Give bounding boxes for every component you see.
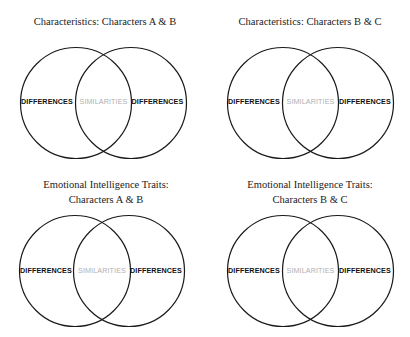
left-differences-label: DIFFERENCES [228, 266, 280, 275]
diagram-title-line-1: Emotional Intelligence Traits: [247, 179, 372, 190]
venn-diagram-characteristics-b-c: Characteristics: Characters B & C DIFFER… [228, 16, 394, 159]
left-differences-label: DIFFERENCES [228, 97, 280, 106]
left-differences-label: DIFFERENCES [21, 97, 73, 106]
right-differences-label: DIFFERENCES [339, 97, 391, 106]
right-differences-label: DIFFERENCES [130, 266, 182, 275]
similarities-label: SIMILARITIES [80, 97, 128, 106]
similarities-label: SIMILARITIES [78, 266, 126, 275]
venn-diagram-emotional-intelligence-b-c: Emotional Intelligence Traits: Character… [228, 179, 394, 327]
diagram-title: Characteristics: Characters B & C [239, 16, 382, 27]
venn-diagram-characteristics-a-b: Characteristics: Characters A & B DIFFER… [21, 16, 187, 159]
right-differences-label: DIFFERENCES [339, 266, 391, 275]
diagram-title: Characteristics: Characters A & B [34, 16, 176, 27]
right-differences-label: DIFFERENCES [132, 97, 184, 106]
diagram-title-line-1: Emotional Intelligence Traits: [43, 179, 168, 190]
diagram-title-line-2: Characters B & C [273, 194, 348, 205]
similarities-label: SIMILARITIES [287, 266, 335, 275]
left-differences-label: DIFFERENCES [20, 266, 72, 275]
similarities-label: SIMILARITIES [287, 97, 335, 106]
diagram-title-line-2: Characters A & B [69, 194, 143, 205]
venn-diagram-emotional-intelligence-a-b: Emotional Intelligence Traits: Character… [20, 179, 185, 327]
venn-diagram-worksheet: Characteristics: Characters A & B DIFFER… [0, 0, 410, 337]
